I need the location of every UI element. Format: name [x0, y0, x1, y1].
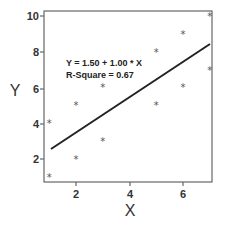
y-tick-label: 10 [27, 10, 39, 22]
y-axis: 10 8 6 4 2 Y [10, 10, 44, 165]
x-axis-title: X [125, 202, 136, 219]
x-tick-label: 4 [127, 188, 134, 200]
data-point-marker: * [181, 82, 186, 93]
data-point-marker: * [74, 154, 79, 165]
y-tick-label: 2 [33, 153, 39, 165]
data-point-marker: * [47, 172, 52, 183]
data-point-marker: * [181, 29, 186, 40]
regression-equation: Y = 1.50 + 1.00 * X [66, 58, 142, 68]
scatter-chart: 10 8 6 4 2 Y 2 4 6 X Y = 1.50 + 1.00 * X… [0, 0, 226, 226]
y-tick-label: 4 [33, 118, 40, 130]
x-tick-label: 6 [180, 188, 186, 200]
r-square-label: R-Square = 0.67 [66, 70, 134, 80]
data-point-marker: * [154, 47, 159, 58]
y-tick-label: 8 [33, 46, 39, 58]
y-tick-label: 6 [33, 83, 39, 95]
data-point-marker: * [154, 100, 159, 111]
data-point-marker: * [74, 100, 79, 111]
plot-frame [44, 11, 212, 182]
data-point-marker: * [207, 11, 212, 22]
data-point-marker: * [207, 65, 212, 76]
x-tick-label: 2 [73, 188, 79, 200]
data-point-marker: * [100, 136, 105, 147]
data-point-marker: * [100, 82, 105, 93]
x-axis: 2 4 6 X [73, 182, 186, 219]
y-axis-title: Y [10, 82, 21, 99]
data-point-marker: * [47, 118, 52, 129]
